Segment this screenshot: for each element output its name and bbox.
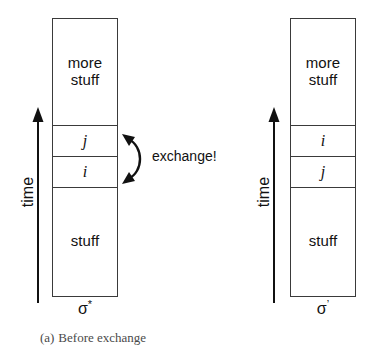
segment-label: stuff bbox=[309, 233, 338, 250]
time-axis-after: time bbox=[244, 105, 284, 305]
segment-more-stuff-before: more stuff bbox=[53, 19, 117, 125]
segment-event-i-before: i bbox=[53, 156, 117, 187]
time-axis-before: time bbox=[8, 105, 48, 305]
panel-after-exchange: time more stuff i j stuff σ’ (b)After ex… bbox=[186, 0, 372, 360]
segment-label: stuff bbox=[71, 233, 100, 250]
exchange-figure: time more stuff j i stuff σ* (a)Before e… bbox=[0, 0, 372, 360]
segment-event-j-after: j bbox=[291, 156, 355, 187]
caption-tag: (a) bbox=[40, 330, 54, 345]
sigma-label-before: σ* bbox=[52, 300, 118, 318]
segment-stuff-before: stuff bbox=[53, 187, 117, 295]
caption-before: (a)Before exchange bbox=[0, 330, 186, 346]
segment-label: j bbox=[321, 163, 326, 181]
sigma-base: σ bbox=[78, 300, 88, 317]
caption-text: Before exchange bbox=[58, 330, 146, 345]
time-axis-label-before: time bbox=[19, 156, 37, 228]
segment-label: more stuff bbox=[68, 55, 103, 89]
sigma-label-after: σ’ bbox=[290, 300, 356, 318]
sigma-base: σ bbox=[317, 300, 327, 317]
segment-label: j bbox=[83, 132, 88, 150]
segment-label: i bbox=[321, 132, 326, 150]
segment-label: i bbox=[83, 163, 88, 181]
sigma-mark: ’ bbox=[327, 298, 329, 310]
sigma-mark: * bbox=[88, 298, 92, 310]
segment-event-i-after: i bbox=[291, 125, 355, 156]
timeline-column-before: more stuff j i stuff bbox=[52, 18, 118, 297]
segment-stuff-after: stuff bbox=[291, 187, 355, 295]
time-axis-label-after: time bbox=[255, 156, 273, 228]
segment-more-stuff-after: more stuff bbox=[291, 19, 355, 125]
timeline-column-after: more stuff i j stuff bbox=[290, 18, 356, 297]
segment-label: more stuff bbox=[306, 55, 341, 89]
segment-event-j-before: j bbox=[53, 125, 117, 156]
